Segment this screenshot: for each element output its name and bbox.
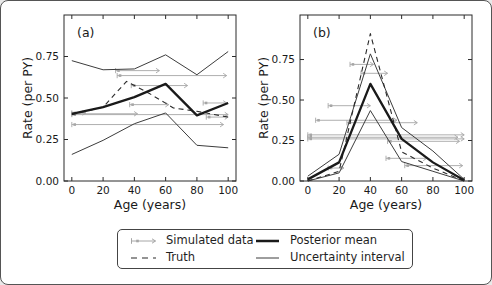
uncertainty-interval-line — [308, 111, 464, 181]
panel-a: 0204060801000.000.250.500.75Age (years)R… — [20, 15, 238, 212]
simulated-data-interval — [328, 103, 370, 108]
posterior-mean-line — [308, 84, 464, 180]
uncertainty-interval-key-icon — [254, 253, 281, 263]
line-chart-canvas: 0204060801000.000.250.500.75Age (years)R… — [1, 1, 492, 223]
legend-item-label: Truth — [166, 252, 195, 264]
y-tick-label: 0.50 — [36, 92, 59, 104]
x-axis-label: Age (years) — [114, 197, 186, 212]
panel-letter: (b) — [313, 25, 331, 40]
y-tick-label: 0.25 — [36, 133, 59, 145]
simulated-data-interval — [350, 62, 373, 67]
statistical-figure: 0204060801000.000.250.500.75Age (years)R… — [0, 0, 492, 285]
uncertainty-interval-line — [72, 113, 228, 155]
legend-item-posterior-mean: Posterior mean — [254, 235, 405, 247]
truth-key-icon — [130, 253, 157, 263]
posterior-mean-key-icon — [254, 236, 281, 246]
x-tick-label: 20 — [96, 184, 109, 196]
x-tick-label: 60 — [159, 184, 172, 196]
posterior-mean-line — [72, 84, 228, 116]
y-axis-label: Rate (per PY) — [20, 57, 35, 139]
simulated-data-interval — [386, 156, 427, 161]
simulated-data-key-icon — [130, 236, 157, 246]
legend-item-label: Simulated data — [166, 235, 254, 247]
x-axis-label: Age (years) — [350, 197, 422, 212]
y-tick-label: 0.00 — [36, 175, 59, 187]
y-tick-label: 0.50 — [272, 94, 295, 106]
legend-item-label: Uncertainty interval — [290, 252, 405, 264]
legend-item-uncertainty-interval: Uncertainty interval — [254, 252, 405, 264]
x-tick-label: 80 — [190, 184, 203, 196]
y-tick-label: 0.75 — [272, 53, 295, 65]
x-tick-label: 0 — [68, 184, 75, 196]
x-tick-label: 100 — [454, 184, 474, 196]
simulated-data-interval — [117, 73, 226, 78]
legend-item-simulated-data: Simulated data — [130, 235, 254, 247]
simulated-data-interval — [347, 120, 417, 125]
y-tick-label: 0.25 — [272, 134, 295, 146]
x-tick-label: 40 — [364, 184, 377, 196]
legend-item-truth: Truth — [130, 252, 254, 264]
simulated-data-interval — [72, 122, 224, 127]
legend-item-label: Posterior mean — [290, 235, 377, 247]
x-tick-label: 60 — [395, 184, 408, 196]
legend: Simulated data Truth Posterior mean Unce… — [117, 229, 413, 269]
x-tick-label: 100 — [218, 184, 238, 196]
panel-letter: (a) — [77, 25, 94, 40]
x-tick-label: 80 — [426, 184, 439, 196]
x-tick-label: 0 — [304, 184, 311, 196]
simulated-data-interval — [130, 102, 169, 107]
uncertainty-interval-line — [72, 52, 228, 75]
y-axis-label: Rate (per PY) — [256, 57, 271, 139]
panel-b: 0204060801000.000.250.500.75Age (years)R… — [256, 15, 474, 212]
x-tick-label: 40 — [128, 184, 141, 196]
y-tick-label: 0.00 — [272, 175, 295, 187]
y-tick-label: 0.75 — [36, 50, 59, 62]
x-tick-label: 20 — [332, 184, 345, 196]
